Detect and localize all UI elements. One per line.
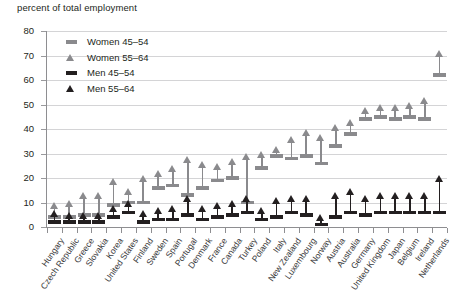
x-axis-tick [180,228,181,233]
data-marker-bar [285,157,298,161]
legend-label: Men 45–54 [87,67,135,78]
x-axis-tick [195,228,196,233]
legend-item[interactable]: Women 45–54 [66,34,206,50]
y-axis-tick-label: 40 [14,124,34,134]
data-stem [187,161,189,195]
data-marker-bar [152,186,165,190]
data-marker-triangle [50,210,58,217]
x-axis-tick [299,228,300,233]
data-stem [350,193,352,213]
data-marker-triangle [272,146,280,153]
x-axis-tick [62,228,63,233]
data-marker-triangle [124,188,132,195]
data-stem [305,134,307,156]
x-axis-tick [151,228,152,233]
data-marker-triangle [94,212,102,219]
data-marker-triangle [183,156,191,163]
data-marker-triangle [109,178,117,185]
data-marker-triangle [109,205,117,212]
data-marker-bar [329,215,342,219]
data-marker-bar [196,186,209,190]
data-marker-triangle [168,165,176,172]
data-marker-bar [255,218,268,222]
x-axis-tick [166,228,167,233]
data-marker-bar [137,201,150,205]
legend-key [66,40,83,44]
data-marker-triangle [242,195,250,202]
data-marker-triangle [228,200,236,207]
legend-triangle-icon [66,54,74,61]
x-axis-tick [77,228,78,233]
x-axis-tick [328,228,329,233]
data-marker-triangle [376,104,384,111]
data-marker-triangle [79,212,87,219]
x-axis-tick [91,228,92,233]
x-axis-tick [314,228,315,233]
chart-legend: Women 45–54Women 55–64Men 45–54Men 55–64 [66,34,206,96]
data-marker-triangle [405,102,413,109]
data-marker-bar [166,184,179,188]
data-marker-triangle [65,212,73,219]
x-axis-tick [358,228,359,233]
legend-item[interactable]: Men 55–64 [66,81,206,97]
y-axis-tick-label: 70 [14,51,34,61]
data-marker-triangle [198,205,206,212]
x-axis-tick [432,228,433,233]
data-marker-bar [63,220,76,224]
data-marker-bar [344,211,357,215]
x-axis-tick [240,228,241,233]
data-marker-bar [166,218,179,222]
data-marker-triangle [391,192,399,199]
legend-bar-icon [66,40,77,44]
gridline [47,105,447,106]
data-marker-bar [359,117,372,121]
legend-item[interactable]: Women 55–64 [66,50,206,66]
data-marker-bar [241,211,254,215]
data-marker-triangle [257,151,265,158]
data-marker-triangle [405,192,413,199]
data-marker-bar [226,213,239,217]
legend-key [66,54,83,61]
data-marker-triangle [154,170,162,177]
data-marker-triangle [168,205,176,212]
y-axis-tick-label: 80 [14,26,34,36]
legend-key [66,71,83,75]
data-marker-triangle [331,124,339,131]
data-marker-triangle [302,195,310,202]
data-marker-bar [137,220,150,224]
data-marker-bar [92,220,105,224]
data-marker-triangle [213,163,221,170]
data-marker-triangle [435,50,443,57]
data-marker-bar [107,215,120,219]
data-marker-triangle [213,202,221,209]
data-stem [202,166,204,188]
data-marker-triangle [272,197,280,204]
y-axis-tick-label: 30 [14,149,34,159]
data-marker-triangle [139,210,147,217]
x-axis-tick [47,228,48,233]
data-marker-triangle [154,207,162,214]
legend-item[interactable]: Men 45–54 [66,65,206,81]
data-marker-bar [255,166,268,170]
x-axis-tick [388,228,389,233]
legend-label: Women 45–54 [87,36,149,47]
data-marker-bar [152,218,165,222]
gridline [47,129,447,130]
data-marker-triangle [361,107,369,114]
data-marker-bar [418,117,431,121]
data-marker-triangle [331,192,339,199]
data-marker-bar [374,115,387,119]
y-axis-tick-label: 0 [14,222,34,232]
data-marker-bar [329,144,342,148]
data-marker-triangle [79,192,87,199]
legend-bar-icon [66,71,77,75]
y-axis-tick-label: 50 [14,100,34,110]
data-marker-bar [122,211,135,215]
data-marker-triangle [435,175,443,182]
data-marker-triangle [346,119,354,126]
data-marker-triangle [50,202,58,209]
data-marker-bar [344,132,357,136]
data-marker-bar [418,211,431,215]
x-axis-tick [447,228,448,233]
legend-label: Men 55–64 [87,83,135,94]
